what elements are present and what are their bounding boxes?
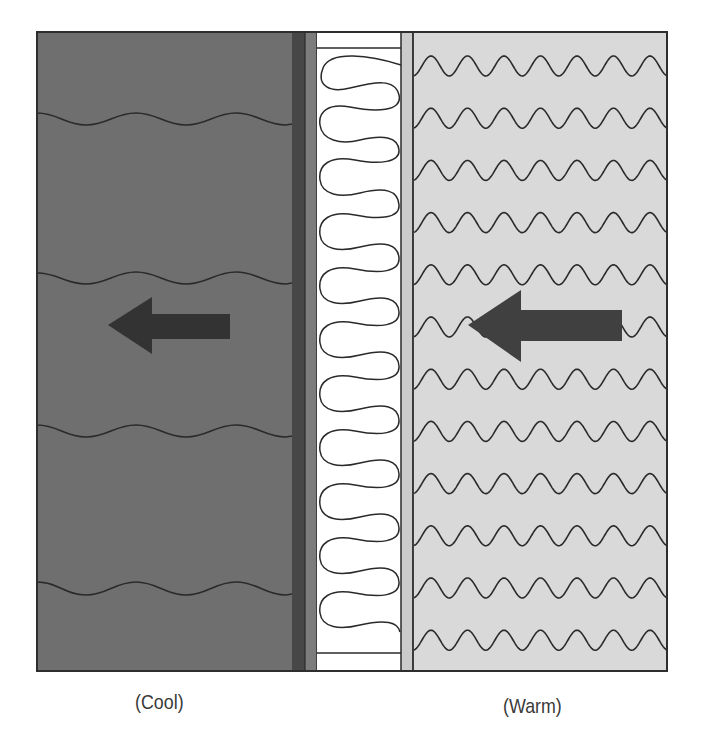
vapor-strip-layer [401, 32, 413, 671]
cool-side-label: (Cool) [135, 690, 184, 714]
warm-side-label: (Warm) [503, 694, 562, 718]
cool-side-zone [37, 32, 293, 671]
insulation-layer [317, 32, 401, 671]
sheathing-medium-layer [305, 32, 317, 671]
sheathing-dark-layer [292, 32, 305, 671]
warm-side-zone [414, 32, 667, 671]
wall-heat-flow-diagram [0, 0, 701, 744]
